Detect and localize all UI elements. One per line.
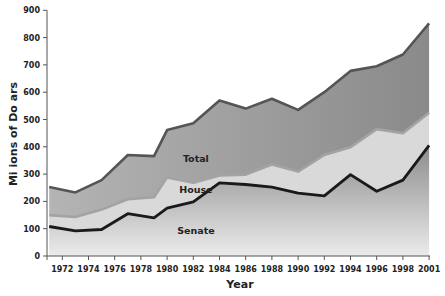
x-tick-label: 1990 (287, 265, 310, 274)
y-tick-label: 400 (23, 143, 40, 152)
label-senate: Senate (177, 225, 214, 236)
x-tick-label: 1978 (130, 265, 153, 274)
x-tick-label: 1974 (77, 265, 100, 274)
x-tick-label: 1982 (182, 265, 204, 274)
y-tick-label: 300 (23, 170, 40, 179)
x-tick-label: 1984 (208, 265, 231, 274)
campaign-spending-area-chart: 0100200300400500600700800900 19721974197… (0, 0, 445, 296)
y-tick-label: 100 (23, 225, 40, 234)
y-axis-title: Mi ions of Do ars (7, 81, 20, 186)
y-tick-label: 900 (23, 6, 40, 15)
x-tick-label: 1994 (339, 265, 362, 274)
y-tick-label: 200 (23, 197, 40, 206)
x-tick-label: 1986 (235, 265, 258, 274)
x-tick-label: 1980 (156, 265, 179, 274)
x-tick-label: 1972 (51, 265, 73, 274)
x-tick-label: 1988 (261, 265, 284, 274)
y-axis: 0100200300400500600700800900 (23, 6, 47, 261)
plot-area (49, 23, 429, 256)
y-tick-label: 800 (23, 34, 40, 43)
y-tick-label: 700 (23, 61, 40, 70)
x-tick-label: 1998 (392, 265, 415, 274)
y-tick-label: 0 (34, 252, 40, 261)
y-tick-label: 600 (23, 88, 40, 97)
x-tick-label: 2001 (418, 265, 441, 274)
x-axis: 1972197419761978198019821984198619881990… (47, 256, 441, 274)
y-tick-label: 500 (23, 116, 40, 125)
x-axis-title: Year (225, 278, 254, 291)
label-house: House (179, 184, 212, 195)
label-total: Total (183, 153, 209, 164)
x-tick-label: 1996 (366, 265, 389, 274)
x-tick-label: 1992 (313, 265, 335, 274)
x-tick-label: 1976 (104, 265, 127, 274)
